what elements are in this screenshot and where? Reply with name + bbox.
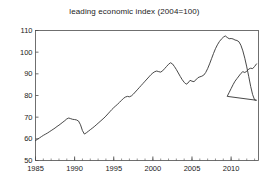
y-tick-label: 110 <box>21 26 33 35</box>
y-tick-label: 60 <box>24 134 32 143</box>
line-chart-plot: 5060708090100110 19851990199520002005201… <box>0 0 269 182</box>
plot-frame <box>36 31 259 161</box>
x-tick-label: 2000 <box>145 164 162 173</box>
x-tick-label: 1990 <box>66 164 83 173</box>
x-tick-label: 2005 <box>184 164 201 173</box>
x-tick-label: 1985 <box>27 164 44 173</box>
x-axis-tick-labels: 198519901995200020052010 <box>27 164 239 173</box>
y-tick-label: 90 <box>24 69 32 78</box>
data-series-line <box>36 36 257 141</box>
x-tick-label: 1995 <box>105 164 122 173</box>
y-tick-label: 70 <box>24 113 32 122</box>
chart-container: leading economic index (2004=100) 506070… <box>0 0 269 182</box>
y-tick-label: 100 <box>20 48 33 57</box>
y-axis-ticks <box>36 31 39 161</box>
y-tick-label: 80 <box>24 91 32 100</box>
x-axis-ticks <box>36 157 232 161</box>
x-tick-label: 2010 <box>223 164 240 173</box>
series-path <box>36 36 257 141</box>
y-axis-tick-labels: 5060708090100110 <box>20 26 33 165</box>
